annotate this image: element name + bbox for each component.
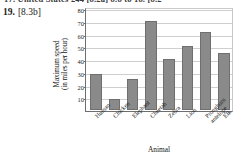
- y-tick-label: 30: [78, 70, 84, 77]
- y-tick-label: 50: [78, 45, 84, 52]
- exercise-number: 19.: [3, 7, 15, 17]
- y-tick-mark: [84, 10, 86, 11]
- y-tick-label: 20: [78, 83, 84, 90]
- y-tick-label: 40: [78, 58, 84, 65]
- bar: [145, 21, 156, 110]
- y-tick-label: 70: [78, 19, 84, 26]
- y-tick-label: 80: [78, 7, 84, 14]
- y-tick-label: 10: [78, 96, 84, 103]
- bar: [200, 32, 211, 110]
- y-tick-label: 60: [78, 32, 84, 39]
- y-tick-mark: [84, 23, 86, 24]
- x-tick-label: Elk: [222, 109, 233, 120]
- clipped-header-label: 17. United States 244 [8.2a] 8.8 to 18. …: [4, 0, 162, 4]
- bar: [182, 46, 193, 110]
- y-tick-mark: [84, 36, 86, 37]
- exercise-label: 19.[8.3b]: [3, 7, 41, 17]
- y-tick-mark: [84, 74, 86, 75]
- y-tick-mark: [84, 87, 86, 88]
- bars-group: [87, 10, 231, 110]
- y-axis-title: Maximum speed (in miles per hour): [54, 22, 68, 106]
- y-tick-mark: [84, 48, 86, 49]
- y-axis-title-line2: (in miles per hour): [62, 22, 70, 106]
- bar-chart: Maximum speed (in miles per hour) 102030…: [55, 8, 241, 156]
- x-axis-tick-labels: HumanChickenElephantCheetahZebraLionPron…: [85, 113, 233, 147]
- x-axis-title: Animal: [85, 145, 233, 154]
- exercise-tag: [8.3b]: [18, 7, 41, 17]
- plot-area-wrapper: 1020304050607080: [85, 8, 233, 112]
- plot-area: 1020304050607080: [85, 8, 233, 112]
- figure-page: 17. United States 244 [8.2a] 8.8 to 18. …: [0, 0, 242, 156]
- y-tick-mark: [84, 99, 86, 100]
- clipped-header-text: 17. United States 244 [8.2a] 8.8 to 18. …: [0, 0, 242, 6]
- y-tick-mark: [84, 61, 86, 62]
- bar: [90, 74, 101, 110]
